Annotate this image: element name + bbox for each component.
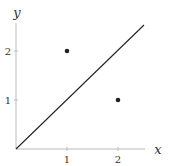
ytick-label-1: 1 (5, 95, 11, 106)
diagonal-line (16, 25, 144, 149)
data-point-2-1 (116, 98, 121, 103)
ytick-label-2: 2 (5, 46, 11, 57)
y-axis-label: y (12, 5, 21, 20)
chart: 1 2 1 2 y x (0, 0, 170, 166)
x-axis-label: x (154, 142, 162, 157)
xtick-label-2: 2 (115, 154, 121, 165)
data-point-1-2 (65, 49, 70, 54)
xtick-label-1: 1 (64, 154, 70, 165)
